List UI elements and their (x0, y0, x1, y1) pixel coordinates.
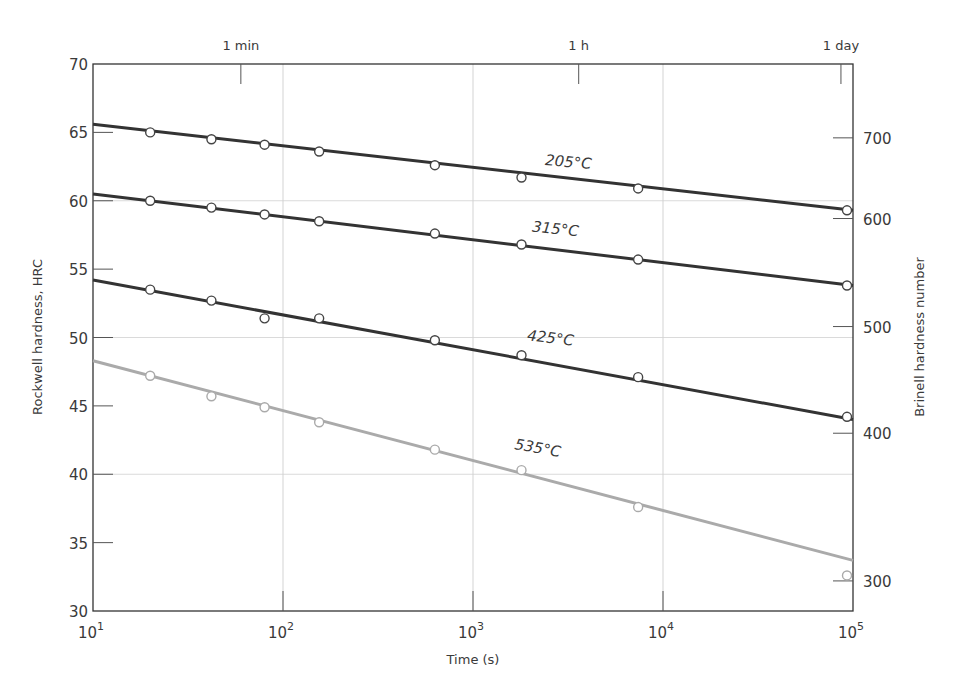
y-axis-title: Rockwell hardness, HRC (30, 259, 45, 415)
y-tick-label: 45 (69, 398, 88, 416)
x-tick-label: 105 (838, 620, 864, 642)
x-tick-label: 103 (458, 620, 484, 642)
x-tick-label: 104 (648, 620, 674, 642)
data-point-marker (146, 285, 155, 294)
left-axis: 303540455055606570 (69, 56, 113, 621)
top-tick-label: 1 min (222, 38, 259, 53)
data-point-marker (843, 281, 852, 290)
data-point-marker (517, 240, 526, 249)
data-point-marker (146, 371, 155, 380)
data-point-marker (315, 314, 324, 323)
data-point-marker (843, 206, 852, 215)
y2-tick-label: 500 (863, 319, 892, 337)
x-axis-title: Time (s) (446, 652, 500, 667)
data-point-marker (207, 392, 216, 401)
data-point-marker (207, 203, 216, 212)
tempering-hardness-chart: 303540455055606570 700600500400300 10110… (0, 0, 964, 694)
data-point-marker (430, 161, 439, 170)
data-point-marker (843, 571, 852, 580)
series-label: 315°C (531, 218, 580, 241)
data-point-marker (146, 196, 155, 205)
data-point-marker (843, 412, 852, 421)
data-point-marker (146, 128, 155, 137)
y-tick-label: 35 (69, 535, 88, 553)
data-point-marker (315, 147, 324, 156)
series-label: 535°C (513, 435, 563, 461)
data-point-marker (260, 314, 269, 323)
data-point-marker (207, 135, 216, 144)
data-point-marker (517, 466, 526, 475)
top-axis: 1 min1 h1 day (222, 38, 859, 84)
y-tick-label: 40 (69, 466, 88, 484)
data-point-marker (260, 403, 269, 412)
y-tick-label: 70 (69, 56, 88, 74)
y2-tick-label: 700 (863, 130, 892, 148)
y-tick-label: 60 (69, 193, 88, 211)
data-point-marker (517, 173, 526, 182)
y-tick-label: 55 (69, 261, 88, 279)
data-point-marker (430, 336, 439, 345)
y2-tick-label: 400 (863, 425, 892, 443)
x-tick-label: 102 (268, 620, 294, 642)
data-point-marker (634, 503, 643, 512)
series-label: 205°C (544, 151, 593, 173)
top-tick-label: 1 h (568, 38, 589, 53)
data-point-marker (260, 210, 269, 219)
y2-tick-label: 600 (863, 211, 892, 229)
data-point-marker (634, 373, 643, 382)
y-tick-label: 65 (69, 124, 88, 142)
y2-tick-label: 300 (863, 573, 892, 591)
data-point-marker (207, 296, 216, 305)
top-tick-label: 1 day (823, 38, 860, 53)
right-axis: 700600500400300 (833, 130, 892, 591)
data-point-marker (634, 255, 643, 264)
y-tick-label: 50 (69, 330, 88, 348)
x-tick-label: 101 (78, 620, 104, 642)
data-point-marker (634, 184, 643, 193)
bottom-axis: 101102103104105 (78, 591, 864, 642)
data-point-marker (517, 351, 526, 360)
y-tick-label: 30 (69, 603, 88, 621)
data-point-marker (260, 140, 269, 149)
y2-axis-title: Brinell hardness number (912, 257, 927, 417)
data-point-marker (315, 418, 324, 427)
data-point-marker (315, 217, 324, 226)
data-point-marker (430, 445, 439, 454)
data-point-marker (430, 229, 439, 238)
series-label: 425°C (526, 326, 575, 350)
